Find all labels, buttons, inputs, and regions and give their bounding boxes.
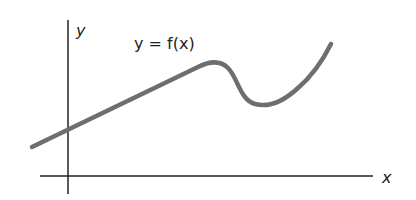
curve-label: y = f(x) xyxy=(134,34,195,53)
function-graph: y y = f(x) x xyxy=(0,0,416,200)
x-axis-label: x xyxy=(381,168,392,187)
y-axis-label: y xyxy=(75,21,86,40)
function-curve xyxy=(32,44,331,147)
